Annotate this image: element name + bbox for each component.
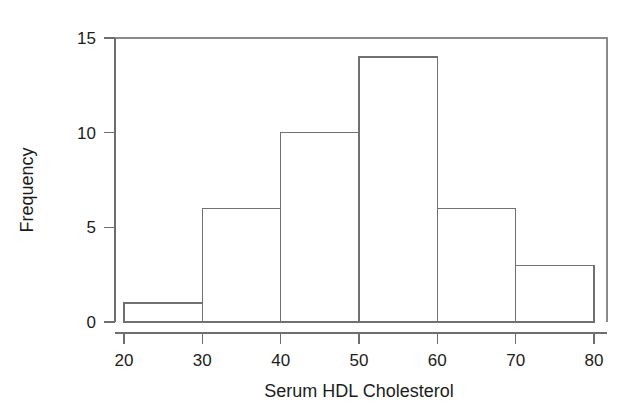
x-tick-label: 50 bbox=[350, 351, 369, 370]
x-axis-title: Serum HDL Cholesterol bbox=[264, 381, 453, 401]
bar-bin-60-70 bbox=[437, 208, 515, 322]
histogram-plot: 15 10 5 0 Frequency bbox=[0, 0, 634, 420]
y-tick-label: 0 bbox=[87, 313, 96, 332]
histogram-figure: 15 10 5 0 Frequency bbox=[0, 0, 634, 420]
y-tick-label: 5 bbox=[87, 218, 96, 237]
y-tick-label: 10 bbox=[77, 124, 96, 143]
x-axis bbox=[115, 333, 607, 344]
bar-bin-50-60 bbox=[359, 57, 437, 322]
bar-bin-40-50 bbox=[281, 133, 359, 322]
histogram-bars bbox=[124, 57, 594, 322]
y-axis bbox=[104, 38, 115, 322]
y-axis-title: Frequency bbox=[17, 147, 37, 232]
bar-bin-30-40 bbox=[202, 208, 280, 322]
x-tick-label: 70 bbox=[506, 351, 525, 370]
x-tick-label: 40 bbox=[271, 351, 290, 370]
bar-bin-20-30 bbox=[124, 303, 202, 322]
y-tick-label: 15 bbox=[77, 29, 96, 48]
x-tick-label: 60 bbox=[428, 351, 447, 370]
x-tick-label: 20 bbox=[115, 351, 134, 370]
x-tick-label: 30 bbox=[193, 351, 212, 370]
x-tick-labels: 20 30 40 50 60 70 80 bbox=[115, 351, 604, 370]
x-tick-label: 80 bbox=[585, 351, 604, 370]
y-tick-labels: 15 10 5 0 bbox=[77, 29, 96, 332]
bar-bin-70-80 bbox=[516, 265, 594, 322]
